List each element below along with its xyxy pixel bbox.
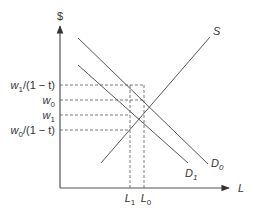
ytick-w0: w0 xyxy=(43,94,56,109)
ytick-w1: w1 xyxy=(43,109,56,124)
supply-label: S xyxy=(213,25,221,37)
demand-curve-d1 xyxy=(78,65,188,163)
horizontal-guides xyxy=(60,85,144,130)
demand-curve-d0 xyxy=(78,38,208,164)
y-axis-label: $ xyxy=(57,10,63,22)
demand0-label: D0 xyxy=(211,157,224,172)
demand1-label: D1 xyxy=(185,167,197,182)
xtick-L0: L0 xyxy=(141,192,152,207)
tax-incidence-diagram: $ L S D0 D1 w1/(1 − t) w0 w1 w0/(1 − t) … xyxy=(0,0,253,213)
x-axis-label: L xyxy=(238,182,244,194)
ytick-w1-over-1mt: w1/(1 − t) xyxy=(11,79,56,94)
ytick-w0-over-1mt: w0/(1 − t) xyxy=(11,124,56,139)
xtick-L1: L1 xyxy=(125,192,136,207)
